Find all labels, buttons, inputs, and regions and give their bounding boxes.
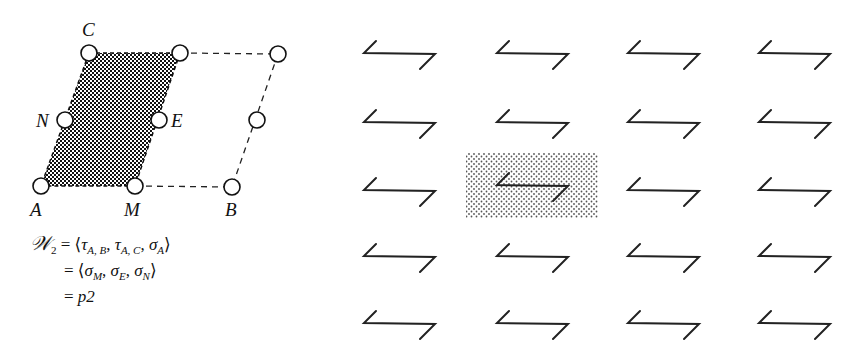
z-arrow-motif-icon [628,41,699,69]
z-arrow-motif-icon [759,311,830,339]
z-arrow-motif-icon [628,311,699,339]
z-arrow-motif-icon [759,178,830,206]
z-arrow-motif-icon [628,244,699,272]
z-arrow-motif-icon [628,110,699,138]
point-A [33,178,49,194]
point-right-mid [249,112,265,128]
label-M: M [124,200,140,219]
point-N [57,112,73,128]
z-arrow-motif-icon [497,110,568,138]
point-E [151,112,167,128]
formula-line-1: 𝒲2 = ⟨τA, B, τA, C, σA⟩ [30,233,171,256]
group-symbol: 𝒲 [30,232,51,254]
z-arrow-motif-icon [759,244,830,272]
z-arrow-motif-icon [364,41,435,69]
z-arrow-motif-icon [759,41,830,69]
label-A: A [30,200,42,219]
label-C: C [82,20,95,39]
point-top-right [270,46,286,62]
formula-line-3: = p2 [64,288,95,305]
z-arrow-motif-icon [497,41,568,69]
z-arrow-motif-icon [759,110,830,138]
z-arrow-motif-icon [364,244,435,272]
formula-line-2: = ⟨σM, σE, σN⟩ [64,262,157,282]
point-M [127,178,143,194]
diagram-canvas [0,0,853,355]
label-N: N [36,111,49,130]
label-E: E [171,111,183,130]
point-B [224,179,240,195]
z-arrow-motif-icon [628,178,699,206]
point-top-mid [172,45,188,61]
z-arrow-motif-icon [364,311,435,339]
z-arrow-motif-icon [364,110,435,138]
z-arrow-motif-icon [497,244,568,272]
point-C [81,45,97,61]
label-B: B [225,200,237,219]
z-arrow-motif-icon [364,178,435,206]
z-arrow-motif-icon [497,311,568,339]
